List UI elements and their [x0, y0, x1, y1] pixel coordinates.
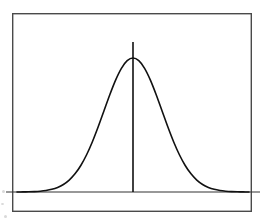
- scan-speck: [2, 190, 5, 193]
- scan-speck: [4, 215, 7, 218]
- figure-background: [0, 0, 260, 223]
- figure-container: [0, 0, 260, 223]
- bell-curve-figure: [0, 0, 260, 223]
- scan-speck: [1, 203, 4, 205]
